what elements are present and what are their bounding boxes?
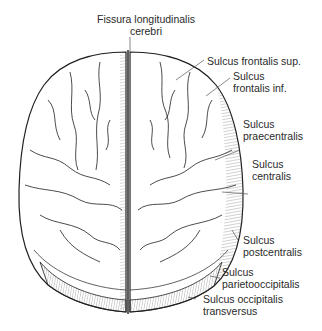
label-line: Fissura longitudinalis [86, 13, 206, 25]
label-fissura-longitudinalis: Fissura longitudinalis cerebri [86, 13, 206, 37]
label-line: praecentralis [243, 130, 303, 142]
label-sulcus-parietooccipitalis: Sulcus parietooccipitalis [222, 266, 300, 290]
label-sulcus-praecentralis: Sulcus praecentralis [243, 118, 303, 142]
label-sulcus-frontalis-inf: Sulcus frontalis inf. [233, 70, 287, 94]
label-sulcus-centralis: Sulcus centralis [252, 158, 291, 182]
label-line: postcentralis [243, 246, 302, 258]
label-sulcus-postcentralis: Sulcus postcentralis [243, 234, 302, 258]
label-line: Sulcus [233, 70, 287, 82]
label-line: Sulcus [243, 118, 303, 130]
label-line: Sulcus occipitalis [203, 293, 283, 305]
label-sulcus-frontalis-sup: Sulcus frontalis sup. [207, 55, 301, 67]
label-line: Sulcus [252, 158, 291, 170]
brain-diagram: Fissura longitudinalis cerebri Sulcus fr… [0, 0, 322, 331]
left-hemisphere [19, 52, 126, 312]
label-line: transversus [203, 305, 283, 317]
label-line: Sulcus frontalis sup. [207, 55, 301, 67]
label-line: frontalis inf. [233, 82, 287, 94]
label-line: parietooccipitalis [222, 278, 300, 290]
label-line: Sulcus [222, 266, 300, 278]
label-line: centralis [252, 170, 291, 182]
label-sulcus-occipitalis-transversus: Sulcus occipitalis transversus [203, 293, 283, 317]
label-line: cerebri [86, 25, 206, 37]
label-line: Sulcus [243, 234, 302, 246]
